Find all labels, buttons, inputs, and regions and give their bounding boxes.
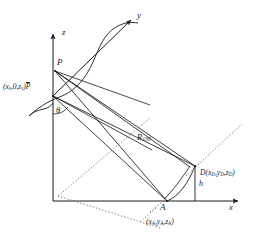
point-p-label: P [57, 58, 63, 67]
source-coordinate-label: (xs,0,zs)P [3, 82, 30, 91]
footprint-arc-inner [164, 166, 190, 199]
point-d-marker [194, 165, 196, 167]
point-pbar-label: P [26, 82, 31, 91]
x-axis-label: x [229, 203, 233, 212]
point-a-coordinate-label: (xA,yA,zA) [146, 218, 174, 226]
point-d-coordinate-label: D(xD,yD,zD) [200, 169, 235, 177]
figure-canvas [0, 0, 254, 235]
point-a-marker [166, 200, 168, 202]
theta-angle-label: θ [56, 106, 60, 115]
height-label: h [199, 180, 203, 188]
geometry-figure: z y x P A θ h R130 (xs,0,zs)P D(xD,yD,zD… [0, 0, 254, 235]
d-coord-close: ) [232, 168, 235, 177]
terrain-curve [29, 22, 138, 116]
slant-range-line [55, 71, 190, 167]
z-axis-label: z [62, 28, 66, 37]
point-pbar-marker [52, 95, 54, 97]
point-p-marker [54, 70, 56, 72]
d-coord-head: D(x [200, 168, 211, 177]
y-axis-label: y [137, 11, 141, 20]
dotted-ground-track-a-upper [58, 118, 150, 196]
slant-range-label: R130 [137, 133, 151, 143]
terrain-curve-tail [29, 103, 53, 116]
point-a-label: A [160, 203, 166, 212]
slant-range-subscript: 130 [142, 136, 151, 142]
a-coord-close: ) [171, 217, 174, 226]
